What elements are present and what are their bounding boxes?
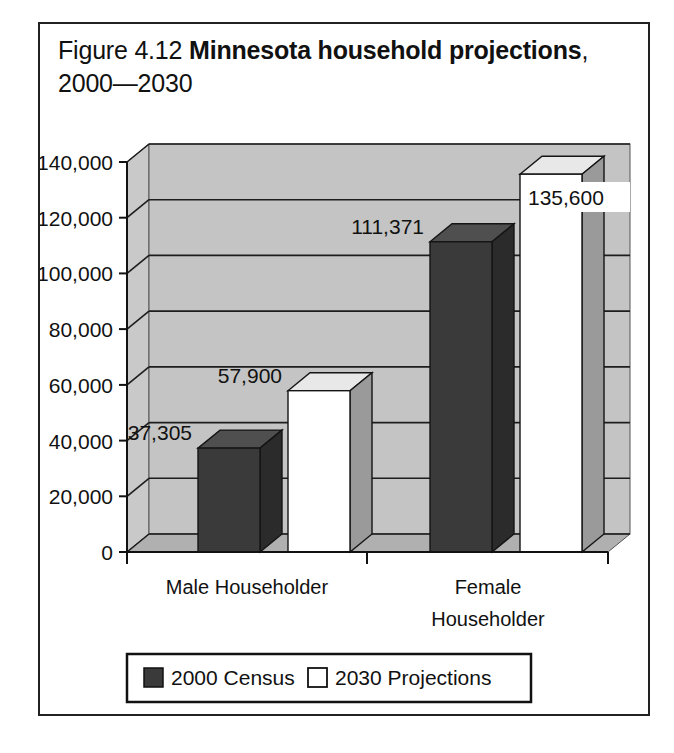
value-label-female-2000: 111,371 — [351, 215, 424, 238]
y-tick-label: 40,000 — [49, 430, 113, 453]
legend-swatch-2030-projections — [308, 668, 327, 687]
y-tick-label: 0 — [101, 541, 113, 564]
bar-front-face — [520, 174, 582, 552]
bar-male-2000-census[interactable] — [198, 430, 282, 552]
x-axis-ticks — [127, 552, 608, 564]
bar-side-face — [492, 224, 514, 552]
bar-female-2000-census[interactable] — [430, 224, 514, 552]
figure-frame: Figure 4.12 Minnesota household projecti… — [38, 22, 650, 716]
figure-title-bold: Minnesota household projections — [189, 36, 581, 64]
y-tick-label: 140,000 — [40, 151, 113, 174]
value-label-female-2030: 135,600 — [528, 186, 604, 209]
y-tick-label: 80,000 — [49, 318, 113, 341]
x-category-label-male: Male Householder — [166, 576, 329, 598]
bar-side-face — [350, 373, 372, 552]
x-category-label-female-line2: Householder — [431, 608, 545, 630]
bar-front-face — [198, 448, 260, 552]
bar-front-face — [288, 391, 350, 552]
legend-label-2000-census[interactable]: 2000 Census — [171, 666, 295, 689]
bar-side-face — [260, 430, 282, 552]
value-label-male-2030: 57,900 — [218, 364, 282, 387]
legend: 2000 Census 2030 Projections — [127, 654, 531, 702]
bar-male-2030-projections[interactable] — [288, 373, 372, 552]
bar-female-2030-projections[interactable] — [520, 156, 604, 552]
y-tick-label: 100,000 — [40, 262, 113, 285]
y-tick-label: 120,000 — [40, 207, 113, 230]
bar-side-face — [582, 156, 604, 552]
figure-number: Figure 4.12 — [58, 36, 182, 64]
legend-swatch-2000-census — [144, 668, 163, 687]
bar-chart-3d: 37,305 57,900 111,371 135,600 140,000 12… — [40, 102, 648, 714]
x-category-label-female-line1: Female — [455, 576, 522, 598]
y-axis-tick-labels: 140,000 120,000 100,000 80,000 60,000 40… — [40, 151, 113, 564]
y-tick-label: 60,000 — [49, 374, 113, 397]
plot-left-wall — [127, 144, 149, 552]
value-label-male-2000: 37,305 — [128, 421, 192, 444]
y-tick-label: 20,000 — [49, 485, 113, 508]
figure-title: Figure 4.12 Minnesota household projecti… — [58, 34, 618, 100]
chart-area: 37,305 57,900 111,371 135,600 140,000 12… — [40, 102, 648, 714]
legend-label-2030-projections[interactable]: 2030 Projections — [335, 666, 491, 689]
bar-front-face — [430, 242, 492, 552]
y-axis-ticks — [119, 162, 127, 552]
